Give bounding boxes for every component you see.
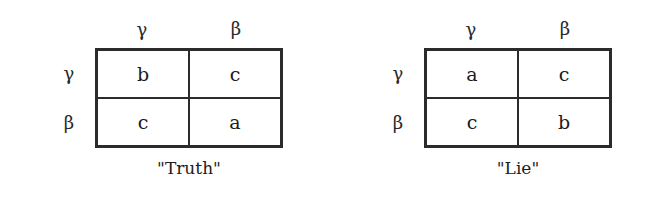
matrix-grid-truth: γ β γ β b c c (47, 0, 283, 200)
matrix-caption-lie: "Lie" (424, 160, 612, 177)
column-header-truth-0: γ (95, 10, 189, 40)
column-header-lie-1: β (518, 10, 612, 40)
payoff-cell-truth-1-0: c (98, 99, 188, 145)
payoff-cell-truth-1-1: a (188, 99, 280, 145)
gamma-glyph: γ (137, 21, 148, 39)
table-row: c b (427, 97, 609, 145)
beta-glyph: β (64, 114, 74, 132)
payoff-cell-lie-0-0: a (427, 51, 517, 97)
payoff-cell-truth-0-1: c (188, 51, 280, 97)
matrix-grid-lie: γ β γ β a c c (376, 0, 612, 200)
column-header-lie-0: γ (424, 10, 518, 40)
column-header-row-lie: γ β (424, 10, 612, 40)
payoff-table-truth: b c c a (95, 48, 283, 148)
beta-glyph: β (393, 114, 403, 132)
row-header-lie-1: β (376, 98, 420, 148)
column-header-truth-1: β (189, 10, 283, 40)
gamma-glyph: γ (64, 65, 75, 83)
payoff-table-lie: a c c b (424, 48, 612, 148)
row-header-truth-1: β (47, 98, 91, 148)
row-header-truth-0: γ (47, 48, 91, 98)
column-header-row-truth: γ β (95, 10, 283, 40)
matrix-block-truth: γ β γ β b c c (0, 0, 330, 200)
gamma-glyph: γ (466, 21, 477, 39)
matrix-caption-truth: "Truth" (95, 160, 283, 177)
beta-glyph: β (231, 20, 241, 38)
table-row: c a (98, 97, 280, 145)
payoff-matrix-figure: γ β γ β b c c (0, 0, 658, 217)
beta-glyph: β (560, 20, 570, 38)
row-header-column-truth: γ β (47, 48, 91, 148)
row-header-lie-0: γ (376, 48, 420, 98)
table-row: b c (98, 51, 280, 97)
gamma-glyph: γ (393, 65, 404, 83)
table-row: a c (427, 51, 609, 97)
matrix-block-lie: γ β γ β a c c (330, 0, 658, 200)
payoff-cell-lie-1-1: b (517, 99, 609, 145)
payoff-cell-lie-1-0: c (427, 99, 517, 145)
row-header-column-lie: γ β (376, 48, 420, 148)
payoff-cell-lie-0-1: c (517, 51, 609, 97)
payoff-cell-truth-0-0: b (98, 51, 188, 97)
